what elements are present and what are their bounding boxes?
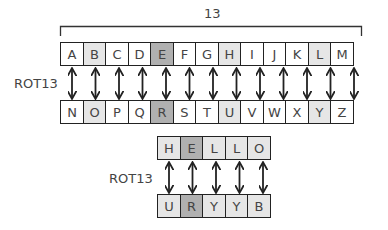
letter-cell: U: [157, 194, 181, 218]
letter-cell: Q: [128, 100, 152, 124]
alphabet-rot13-label: ROT13: [14, 76, 58, 91]
letter-cell: O: [247, 136, 271, 160]
letter-cell: L: [308, 42, 332, 66]
letter-cell: E: [180, 136, 204, 160]
letter-cell: M: [330, 42, 354, 66]
bracket-13: [61, 27, 362, 37]
letter-cell: L: [225, 136, 249, 160]
letter-cell: Z: [330, 100, 354, 124]
letter-cell: D: [128, 42, 152, 66]
ciphertext-word: URYYB: [157, 194, 271, 218]
letter-cell: S: [173, 100, 197, 124]
letter-cell: O: [83, 100, 107, 124]
letter-cell: Y: [202, 194, 226, 218]
letter-cell: I: [240, 42, 264, 66]
letter-cell: V: [240, 100, 264, 124]
word-arrows: [169, 163, 263, 192]
letter-cell: W: [263, 100, 287, 124]
letter-cell: N: [60, 100, 84, 124]
letter-cell: H: [218, 42, 242, 66]
letter-cell: R: [150, 100, 174, 124]
letter-cell: Y: [225, 194, 249, 218]
letter-cell: A: [60, 42, 84, 66]
letter-cell: Y: [308, 100, 332, 124]
shift-amount-label: 13: [204, 6, 221, 21]
alphabet-arrows: [72, 69, 354, 98]
letter-cell: U: [218, 100, 242, 124]
example-rot13-label: ROT13: [109, 171, 153, 186]
letter-cell: B: [247, 194, 271, 218]
letter-cell: E: [150, 42, 174, 66]
letter-cell: P: [105, 100, 129, 124]
letter-cell: J: [263, 42, 287, 66]
letter-cell: B: [83, 42, 107, 66]
letter-cell: X: [285, 100, 309, 124]
letter-cell: R: [180, 194, 204, 218]
letter-cell: K: [285, 42, 309, 66]
alphabet-first-half: ABCDEFGHIJKLM: [60, 42, 354, 66]
letter-cell: F: [173, 42, 197, 66]
letter-cell: L: [202, 136, 226, 160]
letter-cell: T: [195, 100, 219, 124]
letter-cell: G: [195, 42, 219, 66]
letter-cell: C: [105, 42, 129, 66]
alphabet-second-half: NOPQRSTUVWXYZ: [60, 100, 354, 124]
plaintext-word: HELLO: [157, 136, 271, 160]
letter-cell: H: [157, 136, 181, 160]
